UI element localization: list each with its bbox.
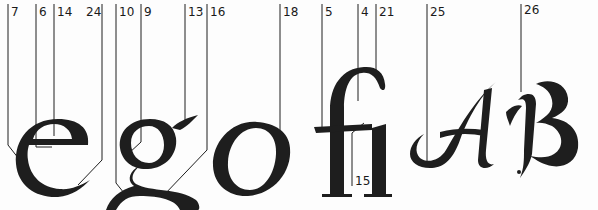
callout-label-18: 18 [283,6,298,18]
callout-label-16: 16 [210,6,225,18]
glyph-e [16,119,90,197]
callout-line-24 [78,4,102,185]
callout-label-24: 24 [86,6,101,18]
glyph-B [506,81,578,178]
callout-label-4: 4 [361,6,369,18]
callout-label-25: 25 [430,6,445,18]
callout-label-6: 6 [39,6,47,18]
callout-line-10 [116,4,128,198]
callout-label-7: 7 [11,6,19,18]
diagram-canvas [0,0,598,210]
callout-label-26: 26 [524,4,539,16]
callout-label-10: 10 [119,6,134,18]
callout-label-13: 13 [188,6,203,18]
glyphs [16,67,578,210]
glyph-o [213,122,290,196]
callout-label-5: 5 [325,6,333,18]
glyph-g [106,115,199,210]
callout-lines [8,4,521,198]
callout-label-21: 21 [379,6,394,18]
letterform-anatomy-diagram: 7 6 14 24 10 9 13 16 18 5 4 21 15 25 26 [0,0,598,210]
callout-label-14: 14 [57,6,72,18]
callout-label-9: 9 [144,6,152,18]
callout-label-15: 15 [355,175,370,187]
glyph-A [410,82,496,168]
